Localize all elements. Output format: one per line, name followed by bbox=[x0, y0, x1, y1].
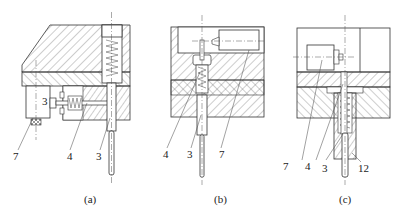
switch-block bbox=[219, 30, 259, 50]
label-12: 12 bbox=[358, 162, 369, 174]
label-7: 7 bbox=[219, 148, 225, 160]
label-7: 7 bbox=[283, 160, 289, 172]
label-3-inner: 3 bbox=[42, 95, 48, 107]
caption-c: (c) bbox=[339, 193, 352, 206]
figure-canvas: 3 7 4 3 (a) 4 3 7 (b) bbox=[0, 0, 400, 224]
label-7: 7 bbox=[13, 150, 19, 162]
label-3: 3 bbox=[187, 148, 193, 160]
label-3: 3 bbox=[96, 150, 102, 162]
subfigure-a: 3 7 4 3 (a) bbox=[13, 12, 130, 206]
caption-a: (a) bbox=[84, 193, 97, 206]
label-3: 3 bbox=[322, 162, 328, 174]
subfigure-b: 4 3 7 (b) bbox=[163, 15, 265, 206]
label-4: 4 bbox=[67, 150, 73, 162]
caption-b: (b) bbox=[214, 193, 227, 206]
subfigure-c: 7 4 3 12 (c) bbox=[283, 15, 390, 206]
label-4: 4 bbox=[163, 148, 169, 160]
label-4: 4 bbox=[305, 160, 311, 172]
